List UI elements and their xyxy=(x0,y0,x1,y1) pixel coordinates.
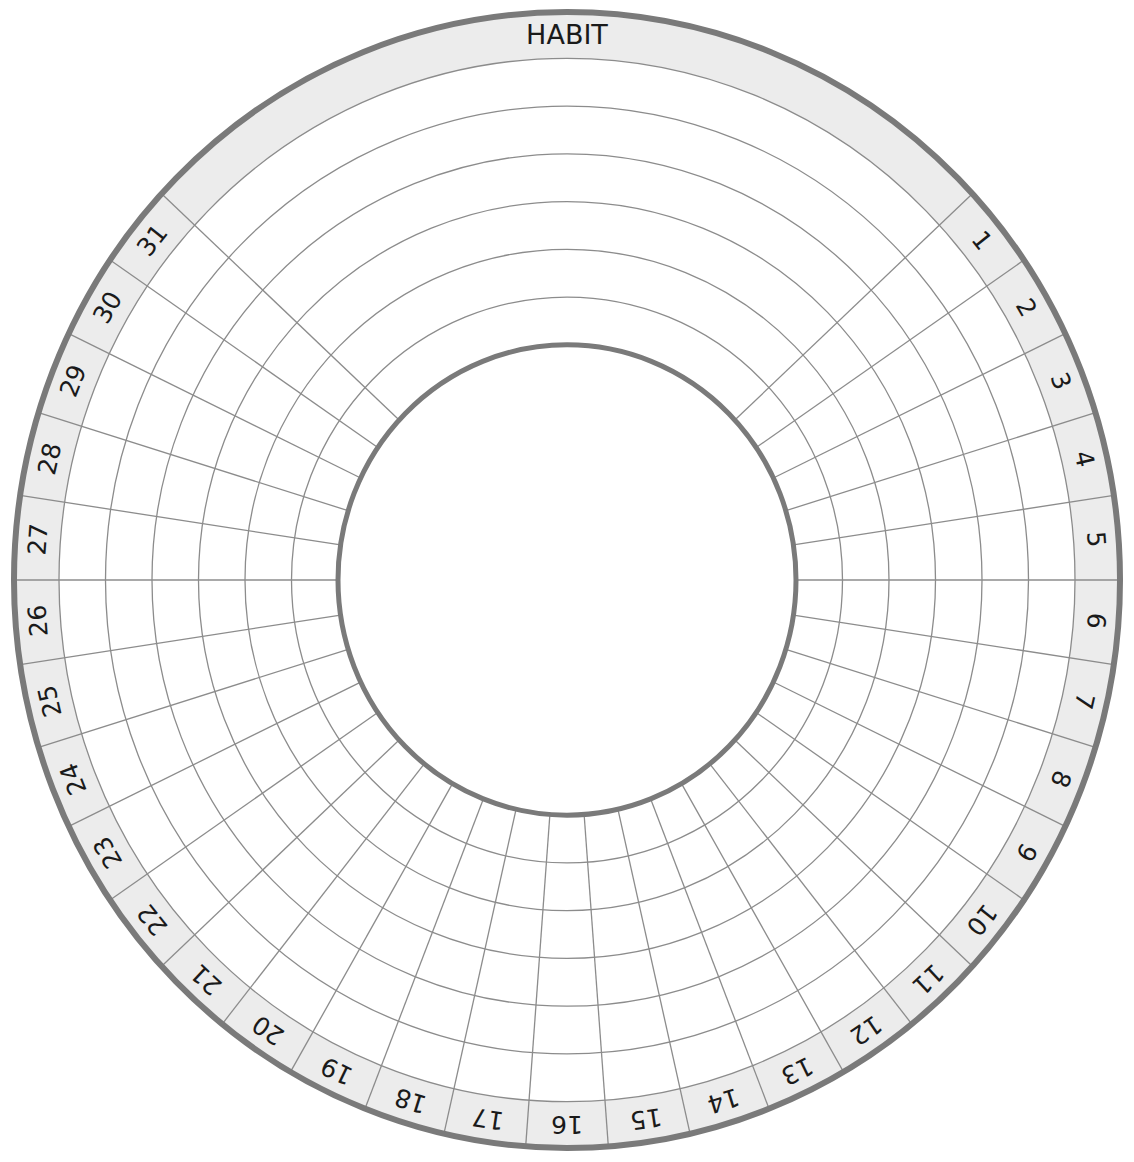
cell-habit-1-day-5[interactable] xyxy=(1023,502,1075,580)
cell-habit-6-day-16[interactable] xyxy=(546,815,587,863)
day-label-6: 6 xyxy=(1081,612,1111,630)
day-label-15: 15 xyxy=(628,1102,664,1135)
cell-habit-4-day-26[interactable] xyxy=(199,580,249,636)
cell-habit-4-day-15[interactable] xyxy=(591,902,649,957)
cell-habit-5-day-5[interactable] xyxy=(839,531,889,580)
cell-habit-2-day-26[interactable] xyxy=(106,580,157,651)
cell-habit-2-day-16[interactable] xyxy=(533,1005,602,1054)
cell-habit-4-day-27[interactable] xyxy=(199,524,249,580)
cell-habit-1-day-26[interactable] xyxy=(59,580,111,658)
cell-habit-4-day-16[interactable] xyxy=(539,910,594,959)
cell-habit-5-day-16[interactable] xyxy=(543,862,591,911)
cell-habit-3-day-17[interactable] xyxy=(475,949,540,1005)
habit-tracker-wheel: 1234567891011121314151617181920212223242… xyxy=(0,0,1134,1162)
cell-habit-2-day-17[interactable] xyxy=(464,996,536,1053)
day-label-26: 26 xyxy=(22,604,53,638)
cell-habit-4-day-5[interactable] xyxy=(885,524,935,580)
cell-habit-5-day-26[interactable] xyxy=(245,580,295,629)
cell-habit-3-day-5[interactable] xyxy=(931,516,982,580)
day-label-16: 16 xyxy=(551,1110,583,1139)
cell-habit-3-day-15[interactable] xyxy=(595,949,660,1005)
cell-habit-5-day-27[interactable] xyxy=(245,531,295,580)
day-label-27: 27 xyxy=(22,522,53,556)
cell-habit-2-day-6[interactable] xyxy=(977,580,1028,651)
day-label-5: 5 xyxy=(1081,530,1111,548)
cell-habit-6-day-5[interactable] xyxy=(793,538,842,580)
habit-title[interactable]: HABIT xyxy=(526,19,608,50)
cell-habit-6-day-6[interactable] xyxy=(793,580,842,622)
cell-habit-4-day-6[interactable] xyxy=(885,580,935,636)
day-label-17: 17 xyxy=(470,1102,506,1135)
cell-habit-2-day-15[interactable] xyxy=(598,996,670,1053)
cell-habit-3-day-26[interactable] xyxy=(152,580,203,644)
cell-habit-2-day-5[interactable] xyxy=(977,509,1028,580)
wheel-group xyxy=(14,12,1120,1148)
cell-habit-3-day-16[interactable] xyxy=(536,957,598,1006)
cell-habit-6-day-26[interactable] xyxy=(292,580,341,622)
cell-habit-2-day-27[interactable] xyxy=(106,509,157,580)
cell-habit-4-day-17[interactable] xyxy=(485,902,543,957)
cell-habit-1-day-16[interactable] xyxy=(529,1053,605,1102)
cell-habit-5-day-6[interactable] xyxy=(839,580,889,629)
cell-habit-3-day-27[interactable] xyxy=(152,516,203,580)
cell-habit-1-day-6[interactable] xyxy=(1023,580,1075,658)
cell-habit-6-day-27[interactable] xyxy=(292,538,341,580)
cell-habit-3-day-6[interactable] xyxy=(931,580,982,644)
inner-circle xyxy=(338,345,796,815)
cell-habit-1-day-27[interactable] xyxy=(59,502,111,580)
